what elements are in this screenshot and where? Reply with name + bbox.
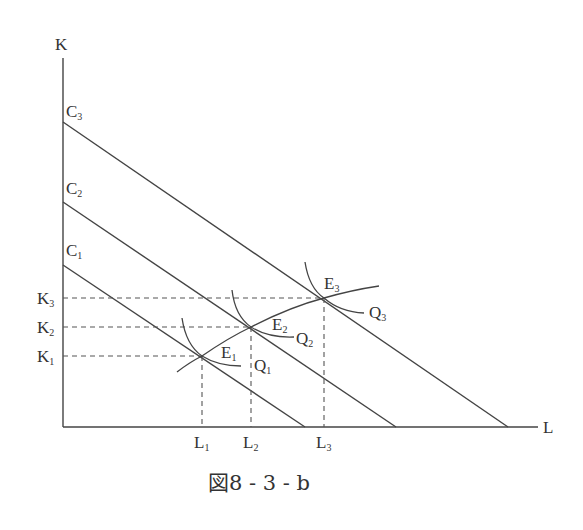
svg-text:L3: L3 xyxy=(316,433,331,453)
svg-text:C2: C2 xyxy=(66,179,82,199)
svg-text:Q2: Q2 xyxy=(296,329,313,349)
svg-text:L1: L1 xyxy=(194,433,209,453)
svg-text:C1: C1 xyxy=(66,241,82,261)
svg-text:E3: E3 xyxy=(324,274,339,294)
equilibrium-label-e1: E1 xyxy=(221,343,236,363)
svg-text:K2: K2 xyxy=(37,318,54,338)
l-label-2: L2 xyxy=(243,433,258,453)
svg-text:E1: E1 xyxy=(221,343,236,363)
svg-text:C3: C3 xyxy=(66,102,82,122)
svg-text:K1: K1 xyxy=(37,347,54,367)
equilibrium-label-e2: E2 xyxy=(272,315,287,335)
x-axis-label: L xyxy=(543,418,553,437)
k-label-2: K2 xyxy=(37,318,54,338)
svg-text:Q1: Q1 xyxy=(254,356,271,376)
isoquant-label-q3: Q3 xyxy=(369,303,386,323)
isocost-label-c2: C2 xyxy=(66,179,82,199)
svg-text:E2: E2 xyxy=(272,315,287,335)
svg-text:Q3: Q3 xyxy=(369,303,386,323)
l-label-1: L1 xyxy=(194,433,209,453)
svg-text:L2: L2 xyxy=(243,433,258,453)
isoquant-label-q2: Q2 xyxy=(296,329,313,349)
svg-text:K3: K3 xyxy=(37,289,54,309)
isocost-line-c1 xyxy=(63,265,305,427)
isocost-label-c3: C3 xyxy=(66,102,82,122)
l-label-3: L3 xyxy=(316,433,331,453)
isocost-label-c1: C1 xyxy=(66,241,82,261)
k-label-1: K1 xyxy=(37,347,54,367)
isocost-line-c3 xyxy=(63,122,508,427)
figure-caption: 図8 - 3 - b xyxy=(208,471,310,495)
isoquant-label-q1: Q1 xyxy=(254,356,271,376)
expansion-path-diagram: K L C3 C2 C1 K3 K2 K1 L1 L2 L3 xyxy=(0,0,583,530)
y-axis-label: K xyxy=(55,35,68,54)
k-label-3: K3 xyxy=(37,289,54,309)
equilibrium-label-e3: E3 xyxy=(324,274,339,294)
